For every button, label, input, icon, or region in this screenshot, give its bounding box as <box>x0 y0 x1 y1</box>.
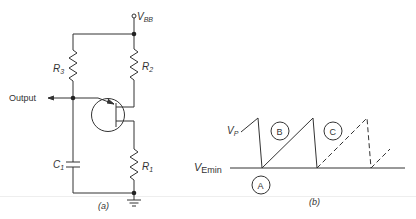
r2-label: R2 <box>142 61 153 73</box>
vp-label: VP <box>227 125 239 137</box>
node-dot-top <box>132 32 137 37</box>
vbb-label: VBB <box>137 11 153 23</box>
waveform-dashed-4 <box>371 149 390 168</box>
output-label: Output <box>9 93 37 103</box>
vbb-terminal <box>132 14 136 18</box>
marker-b-label: B <box>277 127 283 137</box>
waveform-solid-1 <box>241 118 262 168</box>
marker-c-label: C <box>330 127 337 137</box>
waveform-dashed-3 <box>317 118 371 168</box>
node-dot-output <box>71 96 76 101</box>
resistor-r3 <box>69 50 77 81</box>
r3-label: R3 <box>53 63 64 75</box>
resistor-r2 <box>130 49 138 80</box>
circuit-and-waveform: VBB R3 R2 R1 C1 Output (a) VP VEmin A B … <box>0 0 416 219</box>
caption-a: (a) <box>98 201 109 211</box>
vemin-label: VEmin <box>194 161 222 175</box>
node-dot-ground <box>132 191 137 196</box>
ground-icon <box>127 200 141 206</box>
figure: VBB R3 R2 R1 C1 Output (a) VP VEmin A B … <box>0 0 416 219</box>
caption-b: (b) <box>309 197 320 207</box>
marker-a-label: A <box>258 181 264 191</box>
c1-label: C1 <box>53 159 64 171</box>
r1-label: R1 <box>142 161 153 173</box>
resistor-r1 <box>130 149 138 180</box>
waveform-solid-2 <box>262 118 317 168</box>
